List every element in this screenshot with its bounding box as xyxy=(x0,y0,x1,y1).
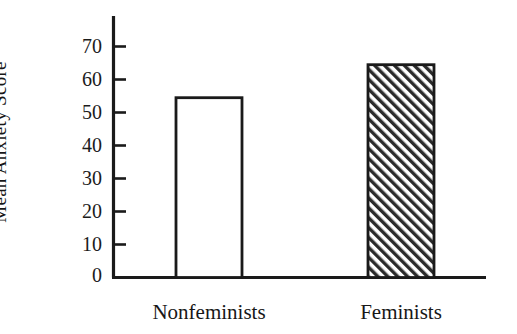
bar-chart-figure: Mean Anxiety Score 70 60 50 40 30 20 10 … xyxy=(0,0,517,334)
x-tick-label-feminists: Feminists xyxy=(360,302,442,323)
bar-nonfeminists xyxy=(176,98,242,278)
y-tick-marks xyxy=(114,47,127,245)
x-tick-label-nonfeminists: Nonfeminists xyxy=(152,302,265,323)
bar-feminists xyxy=(368,65,434,278)
plot-area xyxy=(0,0,517,334)
